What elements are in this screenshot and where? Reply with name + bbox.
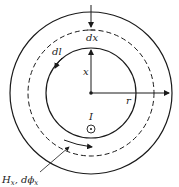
current-label: I [88, 111, 94, 122]
field-flux-label: Hx, dϕx [1, 174, 38, 187]
svg-text:Hx, dϕx: Hx, dϕx [1, 174, 38, 187]
center-dot [89, 91, 93, 95]
r-label: r [126, 95, 132, 106]
diagram-canvas: dx dl x r I Hx, dϕx [0, 0, 179, 187]
dx-label: dx [86, 32, 98, 43]
dl-arrow-icon [55, 58, 62, 68]
current-dot [90, 128, 92, 130]
field-arrow-icon [64, 140, 92, 147]
dl-label: dl [52, 46, 62, 57]
x-label: x [83, 66, 89, 77]
